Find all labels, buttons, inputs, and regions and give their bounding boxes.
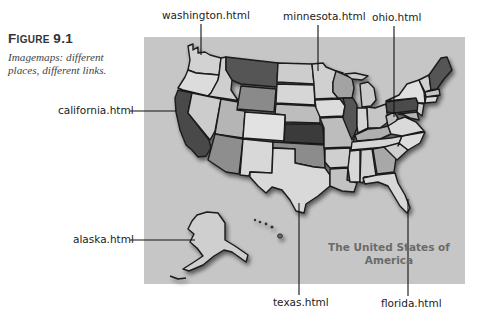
- state-ohio[interactable]: [367, 104, 388, 128]
- label-alaska[interactable]: alaska.html: [73, 233, 134, 245]
- state-iowa[interactable]: [315, 99, 345, 117]
- label-minnesota[interactable]: minnesota.html: [283, 10, 366, 22]
- map-title-line1: The United States of: [324, 241, 454, 254]
- map-title-line2: America: [324, 254, 454, 267]
- label-washington[interactable]: washington.html: [162, 9, 250, 21]
- state-connecticut-ri[interactable]: [425, 96, 438, 103]
- state-mississippi[interactable]: [348, 150, 360, 182]
- state-colorado[interactable]: [243, 112, 285, 141]
- label-ohio[interactable]: ohio.html: [372, 11, 422, 23]
- label-texas[interactable]: texas.html: [273, 296, 329, 308]
- map-title: The United States of America: [324, 241, 454, 267]
- state-kansas[interactable]: [284, 124, 324, 144]
- state-arkansas[interactable]: [325, 148, 350, 168]
- label-florida[interactable]: florida.html: [381, 297, 442, 309]
- label-california[interactable]: california.html: [58, 104, 134, 116]
- state-wyoming[interactable]: [237, 86, 276, 112]
- state-north-dakota[interactable]: [277, 63, 314, 84]
- imagemap: The United States of America washington.…: [0, 0, 487, 328]
- state-south-dakota[interactable]: [276, 84, 315, 105]
- us-map: [0, 0, 487, 328]
- state-new-mexico[interactable]: [240, 139, 273, 176]
